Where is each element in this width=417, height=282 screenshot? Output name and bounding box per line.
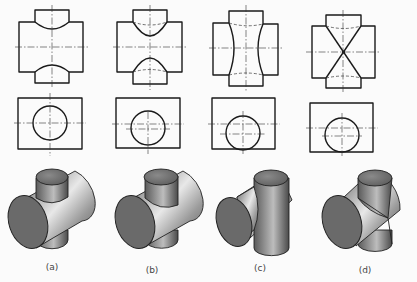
top-view-b — [112, 98, 184, 154]
isometric-view-d — [316, 170, 400, 254]
panel-label-b: (b) — [146, 265, 159, 275]
panel-label-a: (a) — [46, 262, 59, 272]
front-view-d — [306, 10, 380, 94]
isometric-view-a — [2, 169, 96, 254]
isometric-view-b — [109, 169, 204, 254]
front-view-c — [209, 5, 283, 92]
cylinder-intersection-diagram — [0, 0, 417, 282]
panel-label-c: (c) — [254, 263, 266, 273]
top-view-a — [14, 93, 86, 156]
isometric-view-c — [210, 170, 292, 256]
panel-label-d: (d) — [359, 265, 372, 275]
front-view-a — [15, 5, 88, 88]
top-view-d — [306, 103, 378, 156]
front-view-b — [113, 5, 186, 90]
top-view-c — [208, 98, 280, 154]
